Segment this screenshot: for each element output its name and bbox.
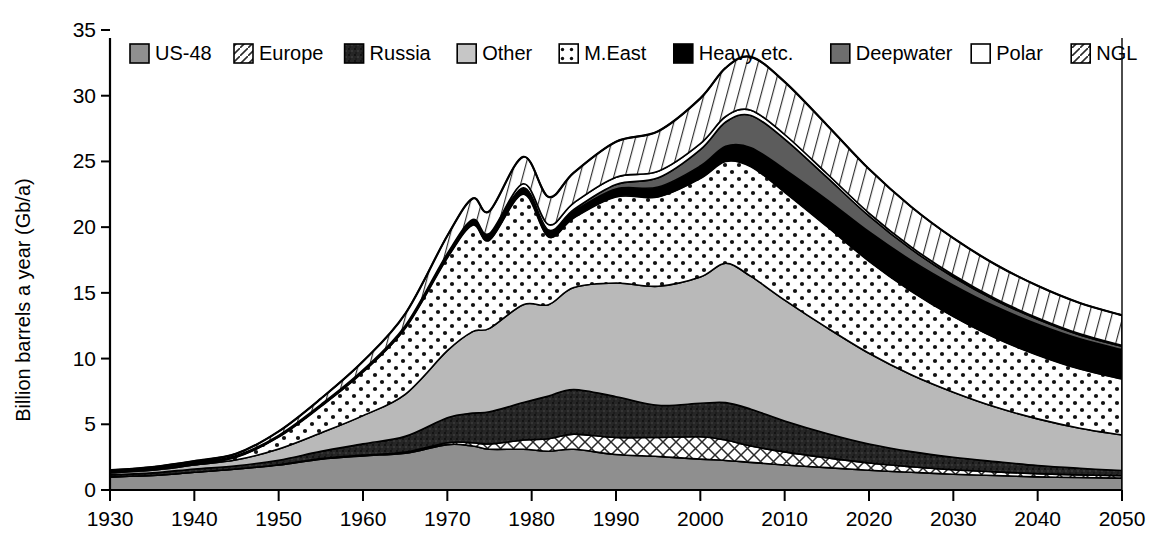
legend-label: Deepwater [856, 42, 953, 64]
swatch-russia [345, 44, 364, 63]
x-tick-label: 2000 [677, 507, 724, 530]
legend-item: Polar [971, 42, 1043, 64]
y-axis-ticks: 05101520253035 [73, 18, 110, 501]
stacked-area-chart: 1930194019501960197019801990200020102020… [0, 0, 1164, 548]
chart-figure: 1930194019501960197019801990200020102020… [0, 0, 1164, 548]
legend-item: Heavy etc. [674, 42, 793, 64]
legend-label: US-48 [155, 42, 212, 64]
y-axis-title: Billion barrels a year (Gb/a) [12, 178, 34, 421]
chart-legend: US-48EuropeRussiaOtherM.EastHeavy etc.De… [130, 42, 1137, 64]
legend-label: Polar [996, 42, 1043, 64]
legend-label: Other [482, 42, 532, 64]
swatch-meast [559, 44, 578, 63]
legend-item: Russia [345, 42, 432, 64]
x-tick-label: 2010 [761, 507, 808, 530]
y-tick-label: 25 [73, 149, 96, 172]
x-tick-label: 1940 [171, 507, 218, 530]
y-tick-label: 15 [73, 281, 96, 304]
swatch-other [457, 44, 476, 63]
y-tick-label: 30 [73, 84, 96, 107]
legend-label: Russia [370, 42, 432, 64]
y-tick-label: 35 [73, 18, 96, 41]
legend-item: Other [457, 42, 532, 64]
legend-label: Heavy etc. [699, 42, 793, 64]
x-tick-label: 1980 [508, 507, 555, 530]
swatch-europe [234, 44, 253, 63]
x-tick-label: 2050 [1099, 507, 1146, 530]
x-tick-label: 1950 [255, 507, 302, 530]
legend-label: NGL [1096, 42, 1137, 64]
legend-item: US-48 [130, 42, 212, 64]
legend-label: M.East [584, 42, 647, 64]
swatch-deepwater [831, 44, 850, 63]
legend-item: NGL [1071, 42, 1137, 64]
x-tick-label: 1930 [87, 507, 134, 530]
y-tick-label: 5 [84, 412, 96, 435]
x-tick-label: 1970 [424, 507, 471, 530]
y-tick-label: 10 [73, 347, 96, 370]
legend-item: Europe [234, 42, 324, 64]
x-tick-label: 2030 [930, 507, 977, 530]
swatch-us48 [130, 44, 149, 63]
x-axis-ticks: 1930194019501960197019801990200020102020… [87, 490, 1146, 530]
x-tick-label: 2020 [846, 507, 893, 530]
legend-item: M.East [559, 42, 647, 64]
y-tick-label: 20 [73, 215, 96, 238]
series-areas [110, 56, 1122, 490]
x-tick-label: 1960 [340, 507, 387, 530]
x-tick-label: 1990 [593, 507, 640, 530]
y-tick-label: 0 [84, 478, 96, 501]
legend-item: Deepwater [831, 42, 953, 64]
swatch-ngl [1071, 44, 1090, 63]
legend-label: Europe [259, 42, 324, 64]
x-tick-label: 2040 [1014, 507, 1061, 530]
swatch-heavy [674, 44, 693, 63]
swatch-polar [971, 44, 990, 63]
